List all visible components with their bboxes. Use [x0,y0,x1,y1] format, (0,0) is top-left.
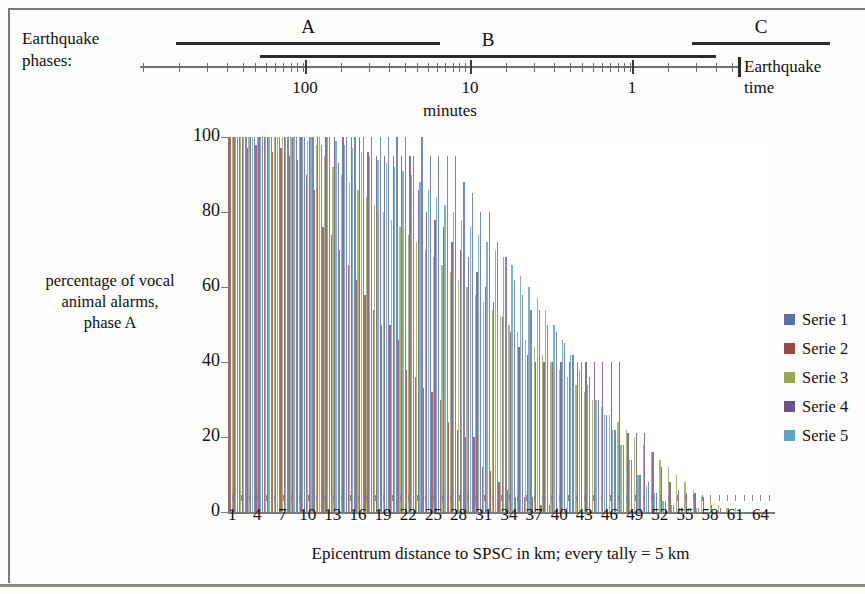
timeline-minor-tick [143,63,144,72]
x-tick [693,495,694,501]
x-tick [283,495,284,501]
x-tick-label-7: 7 [270,505,296,525]
legend-swatch-icon [784,372,795,383]
phase-bar-B [260,55,716,58]
x-tick [760,495,761,501]
bar [436,197,437,512]
timeline-minor-tick [453,63,454,72]
x-tick [459,495,460,501]
bar [503,257,504,512]
bar [470,227,471,512]
x-tick [383,495,384,501]
x-tick [417,495,418,501]
bar [386,163,387,512]
plot-area [228,137,773,512]
y-tick-60 [221,287,229,288]
timeline-minor-tick [732,63,733,72]
timeline-axis [140,66,740,68]
bar [352,148,353,512]
bar [497,242,498,512]
x-tick [450,495,451,501]
bar [530,310,531,513]
phase-letter-C: C [746,16,776,38]
x-tick [308,495,309,501]
x-tick-label-58: 58 [697,505,723,525]
timeline-minor-tick [369,63,370,72]
bar [419,182,420,512]
timeline-minor-tick [417,63,418,72]
bar [327,137,328,512]
timeline-minor-tick [602,63,603,72]
bar [522,295,523,513]
x-tick [534,495,535,501]
x-tick [266,495,267,501]
bar [495,250,496,513]
phase-letter-A: A [293,16,323,38]
x-tick-label-16: 16 [345,505,371,525]
timeline-tick-label-1: 1 [602,78,662,98]
x-tick-label-52: 52 [647,505,673,525]
legend-swatch-icon [784,314,795,325]
x-tick [601,495,602,501]
timeline-minor-tick [275,63,276,72]
timeline-minor-tick [227,63,228,72]
bar [461,220,462,513]
earthquake-phases-label-line1: Earthquake [22,28,132,50]
bar [545,310,546,513]
x-tick [551,495,552,501]
x-tick [299,495,300,501]
x-tick [685,495,686,501]
x-tick-label-37: 37 [521,505,547,525]
bar [235,137,236,512]
bar [589,377,590,512]
x-tick-label-10: 10 [295,505,321,525]
bar [453,212,454,512]
bar [369,156,370,512]
timeline-minor-tick [428,63,429,72]
x-tick [249,495,250,501]
bar [302,137,303,512]
bar [614,430,615,513]
x-tick [668,495,669,501]
legend-label: Serie 3 [802,368,848,388]
timeline-major-tick [470,60,472,74]
timeline-minor-tick [405,63,406,72]
timeline-tick-label-10: 10 [440,78,500,98]
timeline-minor-tick [618,63,619,72]
x-tick [375,495,376,501]
legend-item-3[interactable]: Serie 3 [784,363,865,392]
x-tick-label-13: 13 [320,505,346,525]
bar [319,137,320,512]
x-tick [467,495,468,501]
x-tick [744,495,745,501]
bar [537,298,538,512]
x-tick [433,495,434,501]
x-tick-label-55: 55 [672,505,698,525]
legend-item-1[interactable]: Serie 1 [784,305,865,334]
legend-item-5[interactable]: Serie 5 [784,421,865,450]
earthquake-phases-panel: Earthquake phases: ABC 100101 minutes Ea… [0,0,865,120]
x-tick [610,495,611,501]
bar [514,280,515,513]
x-tick [752,495,753,501]
x-tick [350,495,351,501]
bar [562,340,563,513]
legend-item-4[interactable]: Serie 4 [784,392,865,421]
bar [620,445,621,513]
legend-item-2[interactable]: Serie 2 [784,334,865,363]
bar [570,355,571,513]
x-tick [333,495,334,501]
chart-legend: Serie 1Serie 2Serie 3Serie 4Serie 5 [784,305,865,450]
x-tick-label-22: 22 [395,505,421,525]
bar-chart: 020406080100 percentage of vocal animal … [0,120,865,594]
phase-bar-A [176,42,440,45]
x-tick [526,495,527,501]
x-tick [475,495,476,501]
x-tick-label-49: 49 [622,505,648,525]
y-tick-label-100: 100 [172,125,220,146]
x-tick [710,495,711,501]
x-tick-label-34: 34 [496,505,522,525]
bar [606,415,607,513]
timeline-minor-tick [243,63,244,72]
timeline-minor-tick [716,63,717,72]
